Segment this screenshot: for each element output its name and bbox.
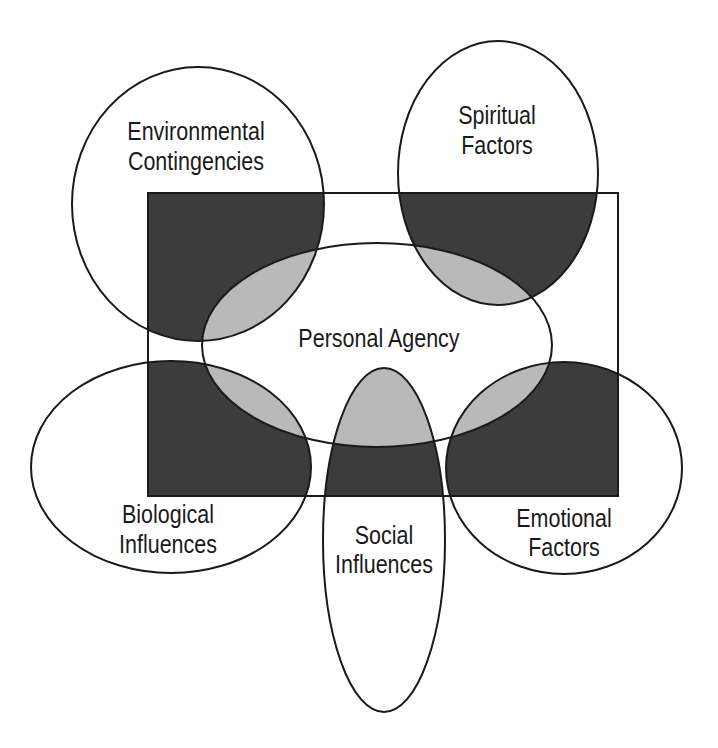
biological-influences-label: Biological Influences: [119, 500, 217, 558]
label-line: Contingencies: [128, 147, 264, 175]
label-line: Emotional: [516, 504, 612, 532]
label-line: Environmental: [127, 117, 264, 145]
label-line: Personal Agency: [298, 324, 460, 352]
label-line: Influences: [335, 550, 433, 578]
label-line: Factors: [528, 533, 600, 561]
spiritual-factors-label: Spiritual Factors: [458, 101, 536, 159]
environmental-contingencies-label: Environmental Contingencies: [127, 117, 264, 175]
social-influences-label: Social Influences: [335, 521, 433, 578]
personal-agency-diagram: Environmental Contingencies Spiritual Fa…: [0, 0, 718, 748]
label-line: Biological: [122, 500, 214, 528]
personal-agency-label: Personal Agency: [298, 324, 460, 352]
label-line: Influences: [119, 530, 217, 558]
label-line: Spiritual: [458, 101, 536, 129]
emotional-factors-label: Emotional Factors: [516, 504, 612, 561]
label-line: Social: [355, 521, 414, 549]
label-line: Factors: [461, 131, 533, 159]
